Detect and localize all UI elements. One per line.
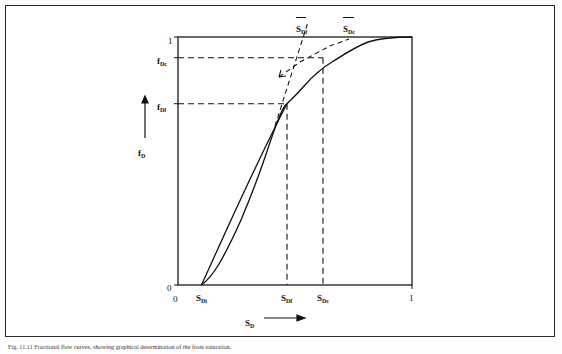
x-tick-label-s-df: SDf	[281, 287, 292, 305]
x-tick-label-one: 1	[409, 287, 414, 305]
y-arrow-head	[142, 96, 148, 103]
annotation-s-df-bar: SDf	[296, 18, 307, 36]
fractional-flow-curve	[201, 37, 412, 285]
plot-axes-box	[178, 37, 412, 285]
x-tick-label-s-di: SDi	[196, 287, 207, 305]
figure-caption: Fig. 11.11 Fractional flow curves, showi…	[8, 343, 528, 350]
axis-ticks	[174, 37, 412, 289]
axes-rectangle	[178, 37, 412, 285]
figure-page: 1 fDc fDf 0 fD 0 SDi SDf SDc 1 SD SDf SD…	[0, 0, 562, 354]
y-axis-title: fD	[138, 142, 145, 160]
y-axis-arrow	[142, 96, 148, 138]
guide-lines	[178, 58, 323, 285]
y-tick-label-f-dc: fDc	[157, 50, 167, 68]
x-arrow-head	[297, 315, 305, 321]
y-tick-label-one: 1	[168, 30, 173, 48]
y-tick-label-zero: 0	[167, 277, 172, 295]
y-tick-label-f-df: fDf	[157, 96, 166, 114]
x-tick-label-s-dc: SDc	[317, 287, 329, 305]
x-tick-label-zero: 0	[173, 288, 178, 306]
curve-group	[201, 37, 412, 285]
annotation-s-dc-bar: SDc	[343, 18, 355, 36]
x-axis-title: SD	[245, 312, 254, 330]
x-axis-arrow	[264, 315, 305, 321]
